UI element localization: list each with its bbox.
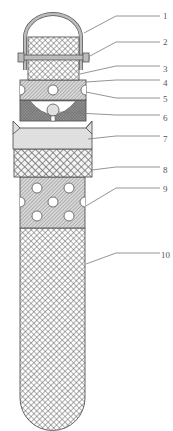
dotted-collar bbox=[13, 121, 92, 149]
crosshatch-ring bbox=[14, 149, 92, 177]
hole bbox=[32, 183, 42, 193]
part-label-7: 7 bbox=[163, 134, 168, 144]
mesh-tube bbox=[20, 228, 85, 431]
bolt-nut-left bbox=[18, 53, 24, 62]
valve-ball-seat bbox=[20, 100, 86, 121]
part-label-9: 9 bbox=[163, 184, 168, 194]
hole bbox=[48, 197, 58, 207]
part-label-1: 1 bbox=[163, 11, 168, 21]
part-label-2: 2 bbox=[163, 37, 168, 47]
hole bbox=[64, 211, 74, 221]
leader-9 bbox=[86, 188, 160, 206]
part-label-3: 3 bbox=[163, 64, 168, 74]
hole bbox=[64, 183, 74, 193]
leader-1 bbox=[84, 16, 160, 33]
perforated-disc bbox=[20, 80, 86, 100]
leader-3 bbox=[80, 66, 160, 74]
leader-10 bbox=[86, 253, 160, 264]
part-label-10: 10 bbox=[161, 250, 171, 260]
hole bbox=[32, 211, 42, 221]
part-label-6: 6 bbox=[163, 113, 168, 123]
leader-2 bbox=[90, 42, 160, 56]
leader-8 bbox=[92, 167, 160, 170]
bolt-nut-right bbox=[83, 53, 89, 62]
leader-4 bbox=[86, 80, 160, 82]
part-label-4: 4 bbox=[163, 78, 168, 88]
valve-ball bbox=[47, 104, 59, 116]
part-label-8: 8 bbox=[163, 165, 168, 175]
part-label-5: 5 bbox=[163, 94, 168, 104]
leader-7 bbox=[88, 136, 160, 139]
leader-5 bbox=[86, 92, 160, 98]
technical-diagram: 1 2 3 4 5 6 7 8 9 10 bbox=[0, 0, 173, 431]
perforated-section bbox=[20, 177, 85, 228]
center-hole bbox=[48, 85, 58, 95]
